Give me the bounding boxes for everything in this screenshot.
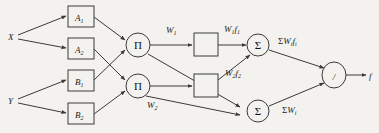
anfis-diagram: X Y A1 A2 B1 B2	[0, 0, 379, 133]
input-label-y: Y	[8, 96, 14, 106]
input-label-x: X	[7, 32, 14, 42]
edge-sum2-to-div	[269, 83, 324, 106]
weight-label-w1: W1	[166, 25, 177, 36]
weight-label-w2: W2	[147, 100, 158, 111]
edge-y-to-b1	[18, 80, 66, 99]
weighted-output-label-w1f1: W1f1	[224, 24, 240, 35]
edge-sum1-to-div	[269, 50, 324, 68]
edge-x-to-a1	[18, 16, 66, 35]
diagram-canvas: X Y A1 A2 B1 B2	[0, 0, 379, 133]
edge-x-to-a2	[18, 39, 66, 48]
edge-y-to-b2	[18, 103, 66, 113]
edge-a1-to-pi1	[94, 17, 125, 40]
sum-label-sum-wi: ΣWi	[282, 105, 297, 116]
consequent-box-1[interactable]	[194, 33, 218, 56]
weighted-output-label-w2f2: W2f2	[225, 68, 241, 79]
sum-node-1-glyph: Σ	[255, 39, 261, 51]
sum-node-2-glyph: Σ	[255, 105, 261, 117]
edge-b2-to-pi2	[94, 91, 125, 114]
sum-label-sum-wifi: ΣWifi	[278, 36, 297, 47]
consequent-box-2[interactable]	[194, 74, 218, 97]
product-node-pi1-glyph: Π	[134, 39, 142, 51]
product-node-pi2-glyph: Π	[134, 80, 142, 92]
output-label-f: f	[369, 71, 373, 81]
